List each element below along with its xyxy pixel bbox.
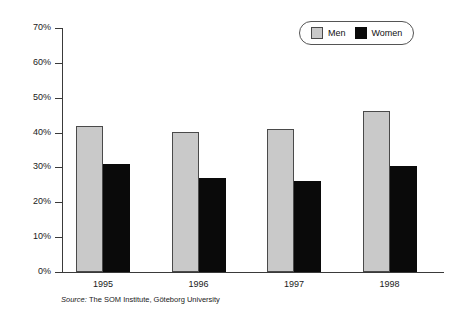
women-swatch-icon <box>355 27 367 39</box>
y-tick-0%: 0% <box>55 272 62 273</box>
y-tick-60%: 60% <box>55 63 62 64</box>
y-tick-label: 70% <box>33 22 51 33</box>
y-tick-40%: 40% <box>55 133 62 134</box>
bar-group-1995 <box>76 28 130 272</box>
y-tick-label: 0% <box>38 266 51 277</box>
y-tick-label: 10% <box>33 231 51 242</box>
source-text: The SOM Institute, Göteborg University <box>89 295 220 304</box>
y-tick-20%: 20% <box>55 202 62 203</box>
y-tick-label: 20% <box>33 196 51 207</box>
legend-label-women: Women <box>372 28 403 39</box>
x-label-1995: 1995 <box>76 278 130 290</box>
bar-women-1996 <box>199 178 226 272</box>
bar-men-1997 <box>267 129 294 272</box>
chart-page: 0%10%20%30%40%50%60%70% 1995199619971998… <box>0 0 456 317</box>
bars-layer <box>62 28 444 272</box>
men-swatch-icon <box>311 27 323 39</box>
bar-women-1997 <box>294 181 321 272</box>
y-tick-70%: 70% <box>55 28 62 29</box>
y-tick-50%: 50% <box>55 98 62 99</box>
source-prefix: Source: <box>61 295 87 304</box>
chart-legend: Men Women <box>299 21 414 45</box>
bar-chart-plot: 0%10%20%30%40%50%60%70% 1995199619971998 <box>0 0 456 317</box>
bar-group-1998 <box>363 28 417 272</box>
y-tick-10%: 10% <box>55 237 62 238</box>
bar-women-1998 <box>390 166 417 272</box>
y-tick-label: 50% <box>33 92 51 103</box>
y-tick-30%: 30% <box>55 167 62 168</box>
x-label-1996: 1996 <box>172 278 226 290</box>
legend-label-men: Men <box>328 28 346 39</box>
legend-entry-men: Men <box>311 27 346 39</box>
x-label-1998: 1998 <box>363 278 417 290</box>
y-tick-label: 60% <box>33 57 51 68</box>
x-axis-line <box>62 272 444 273</box>
source-caption: Source: The SOM Institute, Göteborg Univ… <box>61 295 220 305</box>
y-tick-label: 40% <box>33 127 51 138</box>
bar-women-1995 <box>103 164 130 272</box>
bar-men-1998 <box>363 111 390 272</box>
bar-group-1997 <box>267 28 321 272</box>
y-tick-label: 30% <box>33 161 51 172</box>
legend-entry-women: Women <box>355 27 403 39</box>
bar-group-1996 <box>172 28 226 272</box>
x-label-1997: 1997 <box>267 278 321 290</box>
bar-men-1995 <box>76 126 103 272</box>
bar-men-1996 <box>172 132 199 272</box>
